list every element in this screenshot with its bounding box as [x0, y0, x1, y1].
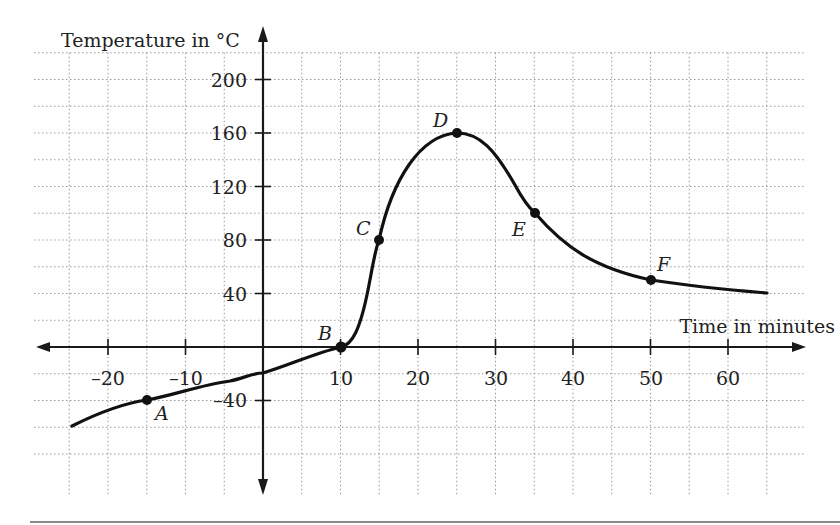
x-tick-label: 60	[716, 367, 740, 389]
x-tick-label: 10	[329, 367, 353, 389]
y-tick-label: 200	[211, 69, 247, 91]
temperature-time-chart: –20 –10 10 20 30 40 50 60 200 160 120 80…	[0, 0, 840, 525]
point-d-marker	[452, 128, 462, 138]
x-tick-label: –10	[169, 367, 203, 389]
x-tick-label: 40	[561, 367, 585, 389]
y-axis	[258, 26, 268, 495]
x-axis-title: Time in minutes	[679, 315, 835, 337]
x-axis-left-arrow-icon	[36, 342, 50, 352]
point-c-marker	[374, 235, 384, 245]
x-tick-labels: –20 –10 10 20 30 40 50 60	[91, 367, 740, 389]
point-f-marker	[646, 275, 656, 285]
y-tick-label: 80	[223, 229, 247, 251]
y-axis-down-arrow-icon	[258, 479, 268, 495]
x-tick-label: 50	[639, 367, 663, 389]
x-tick-label: 30	[484, 367, 508, 389]
grid-lines	[34, 53, 806, 495]
x-axis	[36, 342, 806, 352]
point-e-label: E	[511, 218, 526, 240]
y-axis-up-arrow-icon	[258, 26, 268, 42]
x-tick-label: 20	[406, 367, 430, 389]
point-e-marker	[530, 208, 540, 218]
point-d-label: D	[432, 109, 448, 131]
point-b-label: B	[317, 322, 332, 344]
y-tick-label: –40	[213, 389, 247, 411]
y-tick-label: 40	[223, 283, 247, 305]
y-tick-label: 160	[211, 122, 247, 144]
point-a-label: A	[153, 402, 169, 424]
x-tick-label: –20	[91, 367, 125, 389]
y-tick-label: 120	[211, 176, 247, 198]
point-f-label: F	[656, 253, 671, 275]
point-a-marker	[142, 395, 152, 405]
point-b-marker	[336, 342, 347, 353]
y-axis-title: Temperature in °C	[61, 29, 240, 51]
y-tick-labels: 200 160 120 80 40 –40	[211, 69, 247, 411]
point-c-label: C	[356, 217, 371, 239]
x-axis-right-arrow-icon	[792, 342, 806, 352]
